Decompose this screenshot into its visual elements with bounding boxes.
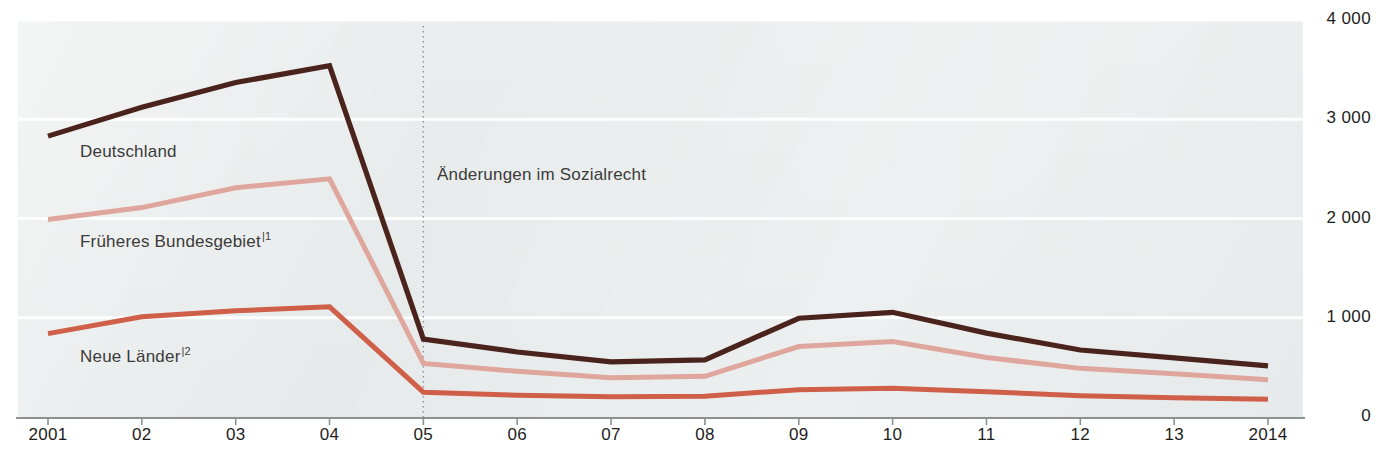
y-axis-tick-label: 4 000 — [1326, 9, 1371, 29]
y-axis-tick-label: 2 000 — [1326, 208, 1371, 228]
x-axis-tick-label: 06 — [507, 425, 527, 445]
series-label-footnote-marker: |1 — [262, 230, 271, 242]
x-axis-tick-label: 07 — [601, 425, 621, 445]
x-axis-tick-label: 03 — [226, 425, 246, 445]
x-axis-tick-label: 12 — [1071, 425, 1091, 445]
x-axis-tick-label: 05 — [414, 425, 434, 445]
x-axis-tick-label: 11 — [977, 425, 995, 445]
x-axis-tick-label: 2001 — [28, 425, 67, 445]
x-axis-tick-label: 2014 — [1248, 425, 1287, 445]
y-axis-tick-label: 3 000 — [1326, 108, 1371, 128]
series-line-deutschland — [48, 66, 1268, 366]
x-axis-tick-label: 08 — [695, 425, 715, 445]
series-label-deutschland: Deutschland — [80, 142, 177, 162]
series-label-footnote-marker: |2 — [182, 345, 191, 357]
series-label-text: Deutschland — [80, 142, 177, 161]
x-axis-tick-label: 04 — [320, 425, 340, 445]
chart-container: 4 0003 0002 0001 0000 200102030405060708… — [0, 0, 1379, 453]
series-label-neue-l-nder: Neue Länder|2 — [80, 345, 191, 367]
y-axis-tick-label: 1 000 — [1326, 307, 1371, 327]
x-axis-tick-label: 02 — [132, 425, 152, 445]
annotation-text: Änderungen im Sozialrecht — [437, 165, 646, 185]
y-axis-tick-label: 0 — [1361, 406, 1371, 426]
x-axis-tick-label: 10 — [883, 425, 903, 445]
gridlines — [18, 20, 1303, 318]
series-label-fr-heres-bundesgebiet: Früheres Bundesgebiet|1 — [80, 230, 271, 252]
x-axis-tick-label: 13 — [1164, 425, 1184, 445]
series-label-text: Neue Länder — [80, 347, 181, 366]
series-label-text: Früheres Bundesgebiet — [80, 232, 261, 251]
chart-svg — [0, 0, 1379, 453]
x-axis-tick-label: 09 — [789, 425, 809, 445]
